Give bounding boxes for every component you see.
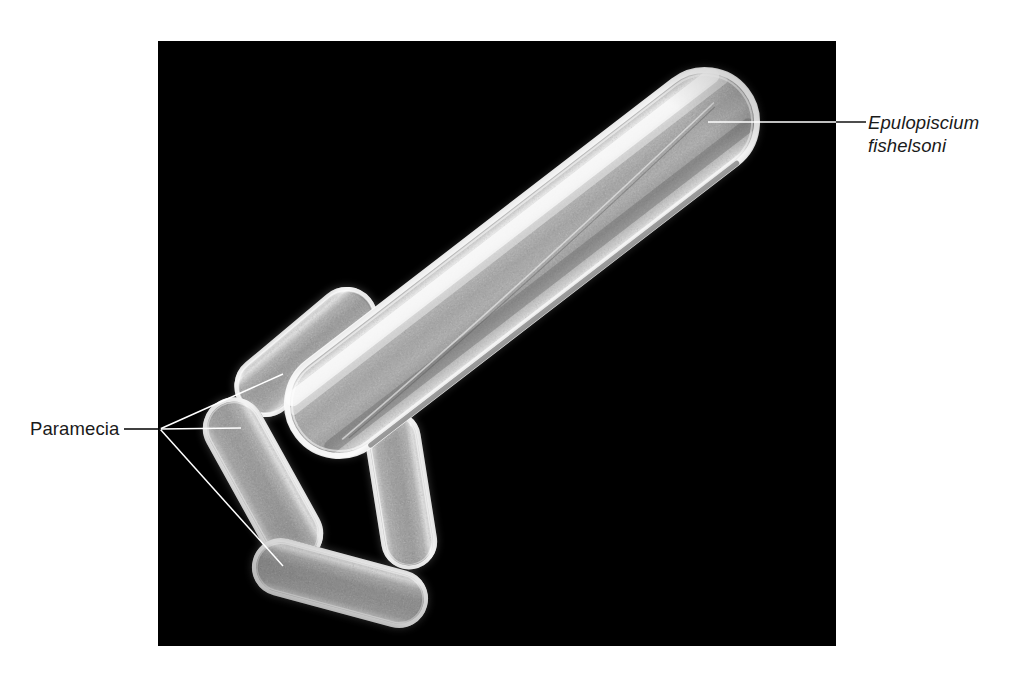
- label-epulopiscium-genus: Epulopiscium: [868, 112, 979, 133]
- micrograph-image: [158, 41, 836, 646]
- figure-root: Paramecia Epulopiscium fishelsoni: [0, 0, 1018, 673]
- label-epulopiscium: Epulopiscium fishelsoni: [868, 111, 979, 157]
- panel-vignette: [158, 41, 836, 646]
- sem-micrograph-panel: [158, 41, 836, 646]
- leader-paramecia-left: [160, 428, 241, 429]
- label-paramecia: Paramecia: [30, 417, 119, 440]
- label-paramecia-text: Paramecia: [30, 418, 119, 439]
- label-epulopiscium-species: fishelsoni: [868, 134, 979, 157]
